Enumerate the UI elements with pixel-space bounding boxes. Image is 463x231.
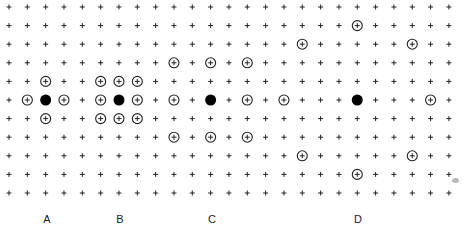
plus-marker	[98, 23, 103, 28]
plus-marker	[135, 191, 140, 196]
plus-marker	[245, 79, 250, 84]
plus-marker	[61, 5, 66, 10]
filled-center-dot	[40, 95, 51, 106]
plus-marker	[116, 60, 121, 65]
center-dots	[40, 95, 363, 106]
plus-marker	[300, 116, 305, 121]
plus-marker	[428, 23, 433, 28]
plus-marker	[61, 42, 66, 47]
plus-marker	[281, 98, 286, 103]
plus-marker	[135, 172, 140, 177]
plus-marker	[153, 60, 158, 65]
plus-marker	[446, 116, 451, 121]
plus-marker	[245, 172, 250, 177]
plus-marker	[25, 191, 30, 196]
plus-marker	[391, 172, 396, 177]
plus-marker	[410, 60, 415, 65]
plus-marker	[336, 5, 341, 10]
plus-marker	[226, 23, 231, 28]
plus-marker	[208, 79, 213, 84]
plus-marker	[208, 153, 213, 158]
plus-marker	[98, 79, 103, 84]
plus-marker	[116, 116, 121, 121]
plus-marker	[80, 79, 85, 84]
plus-marker	[355, 79, 360, 84]
plus-marker	[226, 135, 231, 140]
plus-marker	[336, 191, 341, 196]
plus-marker	[25, 5, 30, 10]
plus-marker	[245, 23, 250, 28]
plus-marker	[25, 153, 30, 158]
plus-marker	[25, 79, 30, 84]
plus-marker	[373, 172, 378, 177]
filled-center-dot	[352, 95, 363, 106]
plus-marker	[25, 42, 30, 47]
plus-marker	[153, 42, 158, 47]
plus-marker	[43, 60, 48, 65]
plus-marker	[190, 153, 195, 158]
plus-marker	[98, 135, 103, 140]
plus-marker	[153, 23, 158, 28]
group-label-b: B	[116, 213, 123, 225]
plus-marker	[281, 191, 286, 196]
plus-marker	[135, 153, 140, 158]
plus-marker	[428, 98, 433, 103]
plus-marker	[318, 153, 323, 158]
plus-marker	[410, 135, 415, 140]
plus-marker	[116, 23, 121, 28]
plus-marker	[428, 42, 433, 47]
plus-marker	[61, 172, 66, 177]
plus-marker	[135, 79, 140, 84]
plus-marker	[391, 23, 396, 28]
plus-marker	[318, 5, 323, 10]
plus-marker	[355, 191, 360, 196]
plus-marker	[318, 172, 323, 177]
plus-marker	[355, 172, 360, 177]
dot-grid-diagram	[0, 0, 463, 231]
plus-marker	[263, 191, 268, 196]
plus-marker	[190, 60, 195, 65]
plus-marker	[428, 172, 433, 177]
plus-marker	[190, 98, 195, 103]
plus-marker	[171, 153, 176, 158]
plus-marker	[391, 60, 396, 65]
plus-marker	[43, 116, 48, 121]
plus-marker	[410, 5, 415, 10]
plus-marker	[226, 191, 231, 196]
plus-marker	[318, 42, 323, 47]
plus-marker	[391, 191, 396, 196]
plus-marker	[190, 23, 195, 28]
plus-marker	[373, 98, 378, 103]
plus-marker	[300, 153, 305, 158]
plus-marker	[300, 191, 305, 196]
plus-marker	[226, 172, 231, 177]
plus-marker	[263, 172, 268, 177]
plus-marker	[300, 60, 305, 65]
plus-marker	[281, 60, 286, 65]
plus-marker	[410, 79, 415, 84]
plus-marker	[61, 60, 66, 65]
plus-marker	[336, 172, 341, 177]
plus-marker	[281, 5, 286, 10]
plus-marker	[190, 172, 195, 177]
plus-marker	[226, 116, 231, 121]
plus-marker	[336, 116, 341, 121]
plus-marker	[171, 23, 176, 28]
plus-marker	[153, 191, 158, 196]
plus-marker	[446, 191, 451, 196]
plus-marker	[300, 172, 305, 177]
plus-marker	[281, 116, 286, 121]
plus-marker	[300, 42, 305, 47]
plus-marker	[98, 116, 103, 121]
plus-marker	[171, 135, 176, 140]
plus-marker	[171, 172, 176, 177]
plus-marker	[208, 135, 213, 140]
plus-marker	[7, 153, 12, 158]
plus-marker	[171, 42, 176, 47]
plus-marker	[116, 153, 121, 158]
plus-marker	[25, 60, 30, 65]
plus-marker	[263, 60, 268, 65]
plus-marker	[61, 135, 66, 140]
plus-marker	[410, 172, 415, 177]
plus-marker	[25, 116, 30, 121]
